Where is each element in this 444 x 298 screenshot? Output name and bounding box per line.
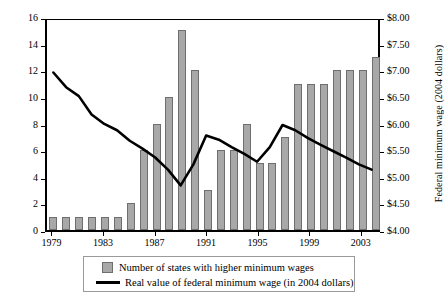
chart-legend: Number of states with higher minimum wag… — [83, 256, 355, 292]
x-axis-tick-label: 1999 — [289, 237, 329, 248]
x-axis-tick-label: 1995 — [238, 237, 278, 248]
legend-bar-swatch-icon — [102, 262, 113, 273]
legend-item-bars: Number of states with higher minimum wag… — [84, 260, 354, 275]
legend-item-line: Real value of federal minimum wage (in 2… — [84, 275, 354, 290]
x-axis-tick-label: 1987 — [135, 237, 175, 248]
x-axis-tick-label: 1979 — [31, 237, 71, 248]
legend-item-line-label: Real value of federal minimum wage (in 2… — [125, 277, 354, 288]
x-axis-tick-label: 2003 — [341, 237, 381, 248]
legend-item-bars-label: Number of states with higher minimum wag… — [119, 262, 314, 273]
x-axis-tick-label: 1991 — [186, 237, 226, 248]
x-axis-tick-label: 1983 — [83, 237, 123, 248]
legend-line-swatch-icon — [96, 281, 120, 284]
